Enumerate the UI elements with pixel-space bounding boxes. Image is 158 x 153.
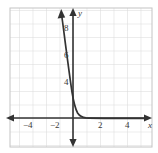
x-axis-label: x: [148, 121, 152, 130]
exponential-graph-figure: −4 −2 2 4 4 6 8 y x: [0, 0, 158, 153]
y-axis-label: y: [78, 9, 82, 18]
x-tick-label-neg4: −4: [23, 121, 33, 130]
y-tick-label-8: 8: [64, 24, 69, 33]
y-tick-label-4: 4: [64, 78, 69, 87]
y-tick-label-6: 6: [64, 51, 69, 60]
x-tick-label-pos2: 2: [98, 121, 103, 130]
coordinate-plane: [0, 0, 158, 153]
x-tick-label-neg2: −2: [50, 121, 60, 130]
x-tick-label-pos4: 4: [125, 121, 130, 130]
